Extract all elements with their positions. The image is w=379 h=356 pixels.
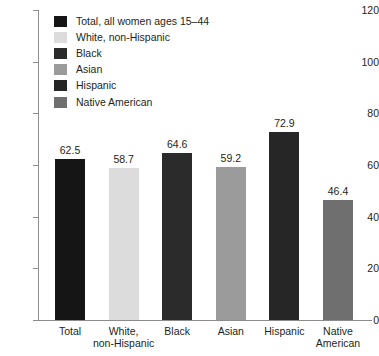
y-tick-label: 80 <box>351 108 379 118</box>
y-tick-mark <box>33 62 38 63</box>
bar <box>216 167 246 320</box>
y-tick-mark <box>33 268 38 269</box>
legend-swatch <box>54 80 67 91</box>
y-axis-line <box>38 10 39 321</box>
category-label-line: non-Hispanic <box>91 338 157 350</box>
bar <box>323 200 353 320</box>
y-tick-mark <box>33 217 38 218</box>
legend-item: Total, all women ages 15–44 <box>54 13 209 29</box>
bar-value-label: 58.7 <box>97 154 151 165</box>
category-label: NativeAmerican <box>305 326 371 349</box>
bar-value-label: 64.6 <box>150 139 204 150</box>
bar <box>55 159 85 320</box>
y-tick-label: 100 <box>351 57 379 67</box>
legend-label: Black <box>76 48 102 59</box>
bar <box>269 132 299 320</box>
legend-item: Asian <box>54 62 209 78</box>
legend-swatch <box>54 48 67 59</box>
x-axis-line <box>38 320 372 321</box>
category-label-line: American <box>305 338 371 350</box>
legend-swatch <box>54 32 67 43</box>
legend-item: Black <box>54 45 209 61</box>
legend-swatch <box>54 16 67 27</box>
legend-item: Native American <box>54 94 209 110</box>
legend-label: Hispanic <box>76 80 116 91</box>
bar-value-label: 72.9 <box>257 118 311 129</box>
chart-legend: Total, all women ages 15–44White, non-Hi… <box>54 13 209 110</box>
y-tick-mark <box>33 10 38 11</box>
legend-label: Native American <box>76 97 152 108</box>
y-tick-mark <box>33 320 38 321</box>
category-label-line: Native <box>305 326 371 338</box>
bar-chart: 020406080100120 62.558.764.659.272.946.4… <box>0 0 379 356</box>
legend-label: Asian <box>76 64 102 75</box>
legend-swatch <box>54 64 67 75</box>
legend-item: Hispanic <box>54 78 209 94</box>
bar <box>109 168 139 320</box>
legend-label: White, non-Hispanic <box>76 32 170 43</box>
bar-value-label: 62.5 <box>43 145 97 156</box>
y-tick-label: 20 <box>351 263 379 273</box>
legend-swatch <box>54 97 67 108</box>
y-tick-label: 0 <box>351 315 379 325</box>
y-tick-label: 60 <box>351 160 379 170</box>
legend-item: White, non-Hispanic <box>54 29 209 45</box>
bar-value-label: 59.2 <box>204 153 258 164</box>
bar-value-label: 46.4 <box>311 186 365 197</box>
y-tick-mark <box>33 165 38 166</box>
y-tick-mark <box>33 113 38 114</box>
y-tick-label: 120 <box>351 5 379 15</box>
y-tick-label: 40 <box>351 212 379 222</box>
legend-label: Total, all women ages 15–44 <box>76 16 209 27</box>
bar <box>162 153 192 320</box>
